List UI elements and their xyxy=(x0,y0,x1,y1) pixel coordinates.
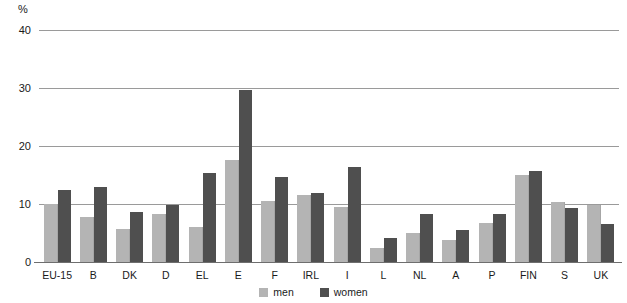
bar-eu-15-men xyxy=(44,204,58,262)
x-axis-label-nl: NL xyxy=(402,268,438,284)
bar-el-men xyxy=(189,227,203,262)
legend-label-men: men xyxy=(273,286,293,298)
bar-b-men xyxy=(80,217,94,262)
x-axis-label-eu-15: EU-15 xyxy=(39,268,75,284)
bar-uk-women xyxy=(601,224,614,262)
bar-group-p xyxy=(474,30,510,262)
y-tick-label-0: 0 xyxy=(25,256,31,268)
x-axis-label-e: E xyxy=(220,268,256,284)
x-axis-label-i: I xyxy=(329,268,365,284)
legend-item-women[interactable]: women xyxy=(320,286,368,298)
bar-groups xyxy=(39,30,619,262)
bar-i-men xyxy=(334,207,348,262)
x-axis-label-s: S xyxy=(547,268,583,284)
bar-group-uk xyxy=(583,30,619,262)
bar-d-women xyxy=(166,205,179,262)
bar-uk-men xyxy=(587,205,601,262)
x-axis-label-fin: FIN xyxy=(510,268,546,284)
bar-group-s xyxy=(547,30,583,262)
x-axis-label-f: F xyxy=(257,268,293,284)
x-axis-label-b: B xyxy=(75,268,111,284)
bar-f-men xyxy=(261,201,275,262)
plot-area: 010203040 xyxy=(39,30,619,262)
bar-group-el xyxy=(184,30,220,262)
bar-dk-men xyxy=(116,229,130,262)
bar-a-women xyxy=(456,230,469,262)
bar-b-women xyxy=(94,187,107,262)
bar-i-women xyxy=(348,167,361,262)
x-axis-label-dk: DK xyxy=(112,268,148,284)
bar-nl-men xyxy=(406,233,420,262)
x-axis-label-d: D xyxy=(148,268,184,284)
x-axis-label-l: L xyxy=(365,268,401,284)
bar-chart: % 010203040 EU-15BDKDELEFIRLILNLAPFINSUK… xyxy=(0,0,627,303)
bar-p-men xyxy=(479,223,493,262)
bar-irl-women xyxy=(311,193,324,262)
bar-fin-men xyxy=(515,175,529,262)
bar-group-irl xyxy=(293,30,329,262)
bar-l-women xyxy=(384,238,397,262)
bar-group-fin xyxy=(510,30,546,262)
y-tick-label-40: 40 xyxy=(19,24,31,36)
bar-group-a xyxy=(438,30,474,262)
bar-el-women xyxy=(203,173,216,262)
bar-group-f xyxy=(257,30,293,262)
x-axis-label-el: EL xyxy=(184,268,220,284)
bar-e-men xyxy=(225,160,239,262)
chart-legend: menwomen xyxy=(0,286,627,298)
bar-nl-women xyxy=(420,214,433,262)
x-axis-label-a: A xyxy=(438,268,474,284)
bar-group-nl xyxy=(402,30,438,262)
bar-s-women xyxy=(565,208,578,262)
x-axis-labels: EU-15BDKDELEFIRLILNLAPFINSUK xyxy=(39,268,619,284)
y-tick-label-20: 20 xyxy=(19,140,31,152)
bar-irl-men xyxy=(297,195,311,262)
y-axis-unit-label: % xyxy=(18,3,28,15)
bar-e-women xyxy=(239,90,252,262)
x-axis-label-irl: IRL xyxy=(293,268,329,284)
bar-eu-15-women xyxy=(58,190,71,262)
legend-item-men[interactable]: men xyxy=(259,286,293,298)
bar-l-men xyxy=(370,248,384,263)
bar-group-l xyxy=(365,30,401,262)
bar-group-dk xyxy=(112,30,148,262)
bar-group-d xyxy=(148,30,184,262)
bar-d-men xyxy=(152,214,166,262)
bar-dk-women xyxy=(130,212,143,262)
x-axis-label-p: P xyxy=(474,268,510,284)
bar-s-men xyxy=(551,202,565,262)
x-axis-label-uk: UK xyxy=(583,268,619,284)
y-tick-label-10: 10 xyxy=(19,198,31,210)
legend-swatch-women xyxy=(320,288,329,297)
bar-group-b xyxy=(75,30,111,262)
bar-p-women xyxy=(493,214,506,262)
legend-swatch-men xyxy=(259,288,268,297)
y-tick-label-30: 30 xyxy=(19,82,31,94)
bar-f-women xyxy=(275,177,288,262)
bar-group-eu-15 xyxy=(39,30,75,262)
bar-group-e xyxy=(220,30,256,262)
legend-label-women: women xyxy=(334,286,368,298)
bar-group-i xyxy=(329,30,365,262)
bar-fin-women xyxy=(529,171,542,262)
bar-a-men xyxy=(442,240,456,262)
